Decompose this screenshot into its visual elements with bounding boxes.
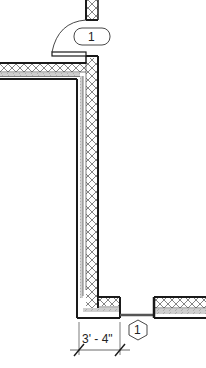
wall-stub-top [86,0,98,20]
floor-plan-drawing [0,0,206,368]
wall-horizontal-bottom-right [154,297,206,318]
dimension-label: 3' - 4" [82,333,113,345]
door-tag-label: 1 [88,31,95,43]
wall-vertical [77,56,98,318]
window-tag-label: 1 [134,324,141,336]
wall-horizontal-top [0,63,86,79]
